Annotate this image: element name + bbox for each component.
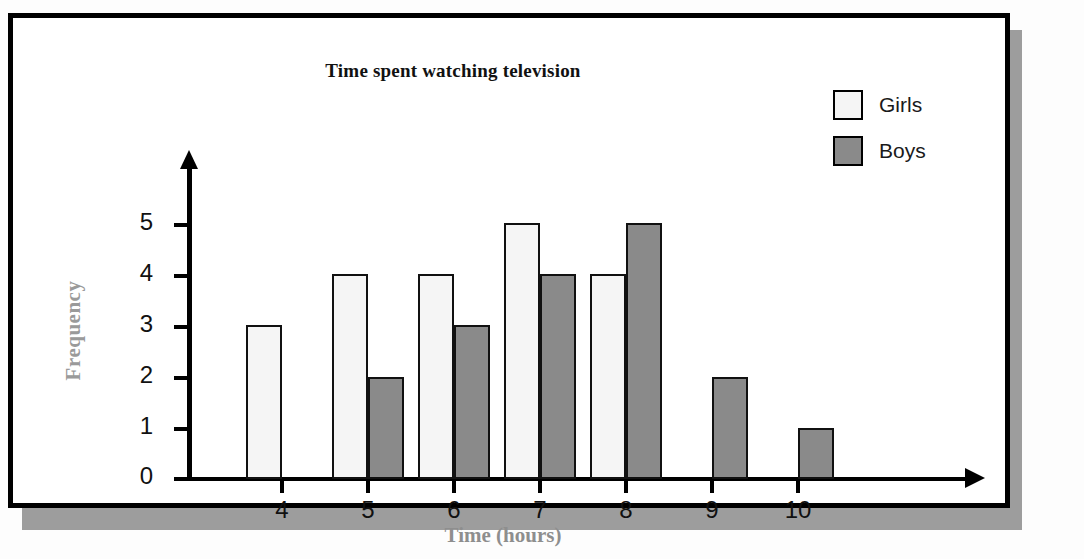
figure-frame: Time spent watching television Girls Boy…	[8, 13, 1010, 508]
x-tick-label: 5	[346, 496, 390, 524]
y-axis-line	[187, 166, 192, 481]
y-tick-mark	[174, 477, 191, 481]
x-tick-mark	[280, 477, 284, 493]
page-canvas: Time spent watching television Girls Boy…	[0, 0, 1084, 559]
x-tick-label: 10	[776, 496, 820, 524]
bar-chart: Time spent watching television Girls Boy…	[13, 18, 1005, 503]
legend-item-boys[interactable]: Boys	[833, 136, 926, 166]
bar-boys-7	[540, 274, 576, 479]
gray-square-icon	[833, 136, 863, 166]
white-square-icon	[833, 90, 863, 120]
y-tick-label: 4	[127, 259, 153, 287]
y-tick-label: 3	[127, 310, 153, 338]
x-tick-label: 8	[604, 496, 648, 524]
x-axis-line	[187, 477, 967, 481]
x-axis-arrow-icon	[965, 468, 985, 488]
y-tick-mark	[174, 325, 191, 329]
bar-boys-10	[798, 428, 834, 479]
y-axis-title: Frequency	[61, 251, 86, 411]
legend-label-girls: Girls	[879, 93, 922, 117]
bar-boys-8	[626, 223, 662, 479]
x-tick-mark	[624, 477, 628, 493]
chart-legend: Girls Boys	[833, 90, 926, 182]
y-tick-mark	[174, 274, 191, 278]
y-tick-mark	[174, 223, 191, 227]
x-tick-mark	[796, 477, 800, 493]
x-tick-label: 9	[690, 496, 734, 524]
x-tick-label: 4	[260, 496, 304, 524]
x-tick-mark	[710, 477, 714, 493]
y-tick-label: 5	[127, 208, 153, 236]
y-tick-mark	[174, 427, 191, 431]
bar-boys-6	[454, 325, 490, 479]
y-tick-label: 2	[127, 361, 153, 389]
legend-label-boys: Boys	[879, 139, 926, 163]
x-axis-title: Time (hours)	[353, 523, 653, 548]
bar-girls-8	[590, 274, 626, 479]
chart-title: Time spent watching television	[13, 60, 893, 82]
bar-girls-4	[246, 325, 282, 479]
bar-girls-7	[504, 223, 540, 479]
bar-boys-9	[712, 377, 748, 479]
y-tick-label: 0	[127, 462, 153, 490]
y-tick-mark	[174, 376, 191, 380]
x-tick-mark	[366, 477, 370, 493]
y-tick-label: 1	[127, 412, 153, 440]
legend-item-girls[interactable]: Girls	[833, 90, 926, 120]
x-tick-mark	[538, 477, 542, 493]
y-axis-arrow-icon	[180, 150, 198, 169]
bar-boys-5	[368, 377, 404, 479]
bar-girls-6	[418, 274, 454, 479]
bar-girls-5	[332, 274, 368, 479]
x-tick-label: 6	[432, 496, 476, 524]
x-tick-mark	[452, 477, 456, 493]
x-tick-label: 7	[518, 496, 562, 524]
